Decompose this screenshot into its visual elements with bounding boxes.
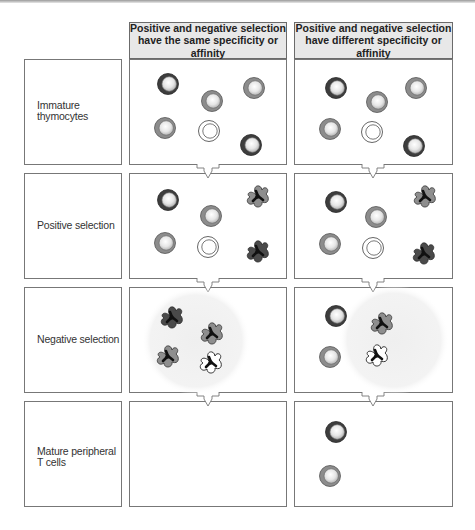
row-label-text: Negative selection bbox=[37, 334, 119, 345]
row-label-text: T cells bbox=[37, 457, 116, 468]
header-same-line1: Positive and negative selection bbox=[130, 22, 286, 35]
panel-different-immature bbox=[294, 59, 453, 165]
row-label-positive-selection: Positive selection bbox=[24, 173, 122, 279]
header-different-line2: have different specificity or affinity bbox=[295, 34, 452, 59]
top-rule bbox=[0, 0, 475, 3]
panel-same-mature bbox=[129, 401, 287, 507]
header-same-line2: have the same specificity or affinity bbox=[130, 34, 286, 59]
header-different-specificity: Positive and negative selection have dif… bbox=[294, 22, 453, 59]
row-label-immature-thymocytes: Immature thymocytes bbox=[24, 59, 122, 165]
row-label-negative-selection: Negative selection bbox=[24, 287, 122, 393]
panel-same-negative bbox=[129, 287, 287, 393]
panel-same-immature bbox=[129, 59, 287, 165]
panel-different-mature bbox=[294, 401, 453, 507]
header-same-specificity: Positive and negative selection have the… bbox=[129, 22, 287, 59]
panel-different-positive bbox=[294, 173, 453, 279]
row-label-text: thymocytes bbox=[37, 111, 88, 122]
row-label-mature-peripheral-t-cells: Mature peripheral T cells bbox=[24, 401, 122, 507]
panel-different-negative bbox=[294, 287, 453, 393]
header-different-line1: Positive and negative selection bbox=[295, 22, 452, 35]
panel-same-positive bbox=[129, 173, 287, 279]
row-label-text: Positive selection bbox=[37, 220, 115, 231]
